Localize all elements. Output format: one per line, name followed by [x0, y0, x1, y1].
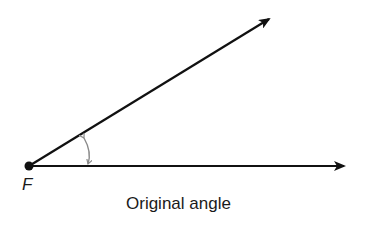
angle-diagram: F Original angle	[0, 0, 370, 227]
vertex-point	[25, 162, 34, 171]
angle-mark-icon	[84, 138, 89, 164]
figure-caption: Original angle	[126, 194, 231, 213]
upper-ray	[29, 19, 269, 166]
vertex-label: F	[22, 175, 34, 194]
